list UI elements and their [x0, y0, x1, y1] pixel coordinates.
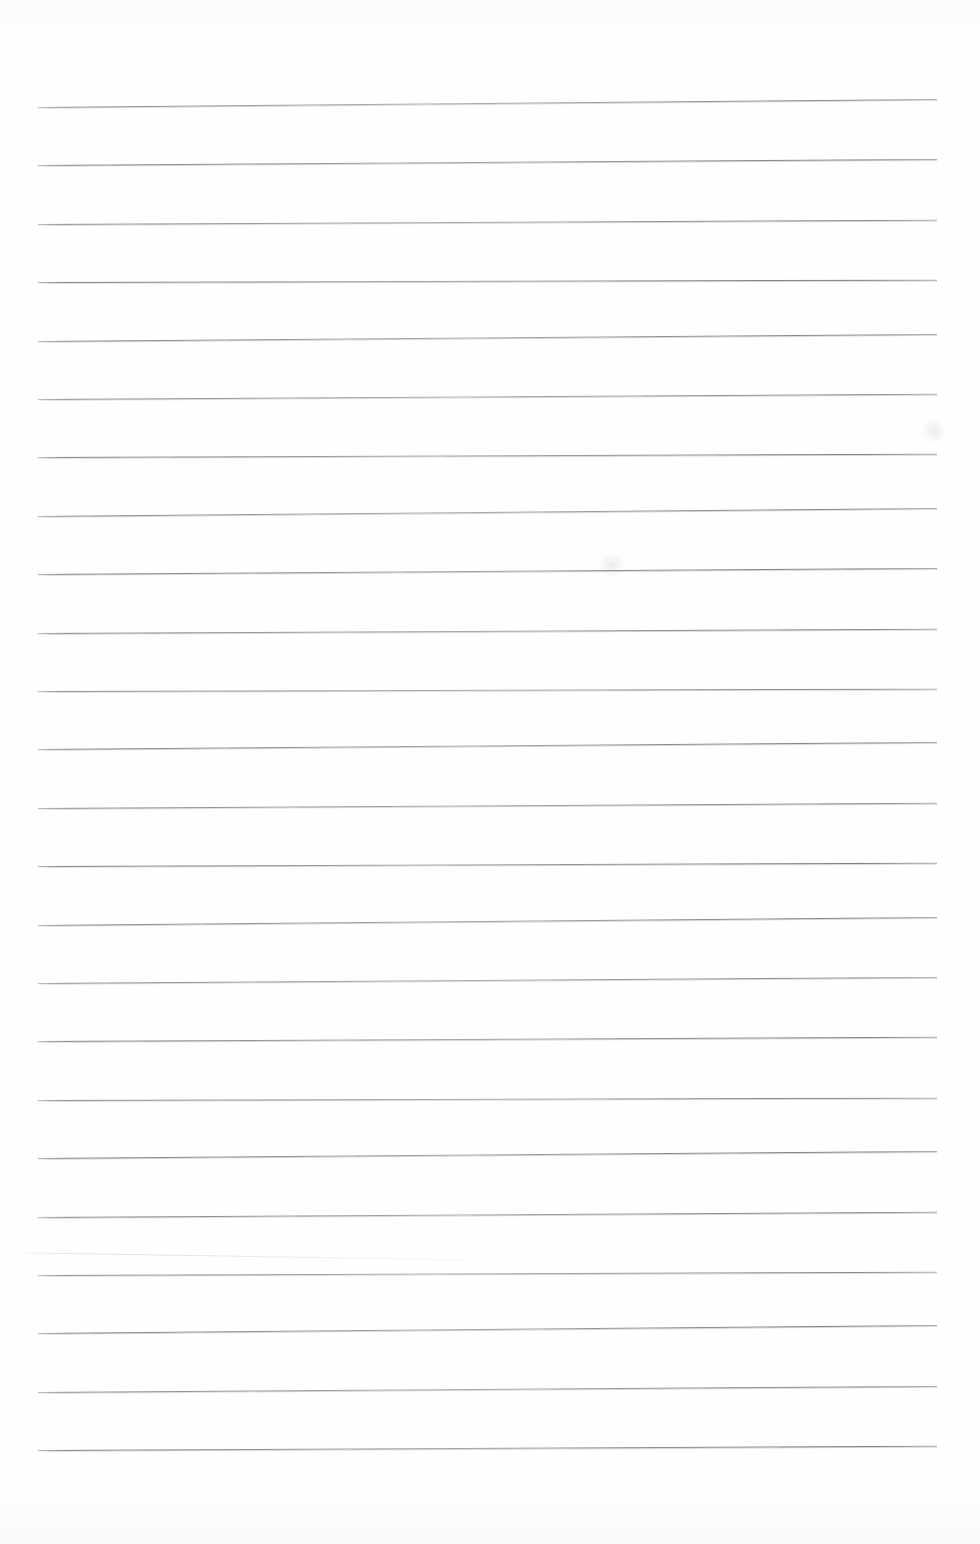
rule-line — [38, 1037, 937, 1042]
rule-line — [38, 280, 937, 283]
ruled-lines-layer — [0, 0, 980, 1544]
rule-line — [38, 99, 937, 108]
rule-line — [38, 628, 937, 633]
rule-line — [38, 1325, 937, 1334]
rule-line — [38, 334, 937, 342]
rule-line — [38, 454, 937, 458]
rule-line — [38, 1386, 937, 1393]
rule-line — [38, 1272, 937, 1276]
rule-line — [38, 863, 937, 867]
rule-line — [38, 977, 937, 984]
rule-line — [38, 508, 937, 517]
rule-line — [38, 159, 937, 166]
rule-line — [38, 689, 937, 692]
rule-line — [38, 220, 937, 225]
rule-line — [38, 1097, 937, 1100]
rule-line — [38, 1151, 937, 1159]
rule-line — [38, 1446, 937, 1451]
rule-line — [38, 917, 937, 926]
rule-line — [38, 742, 937, 750]
rule-line — [38, 1211, 937, 1217]
scanned-page — [0, 0, 980, 1544]
rule-line — [38, 803, 937, 809]
rule-line — [38, 394, 937, 400]
rule-line — [38, 568, 937, 575]
